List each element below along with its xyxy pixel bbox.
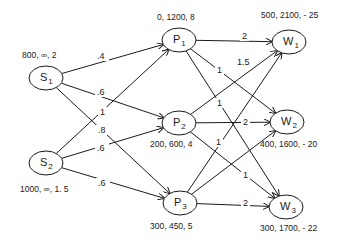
node-p1: P10, 1200, 8 xyxy=(157,12,196,52)
edge-weight-label: 1 xyxy=(100,107,105,117)
edge-s1-p2 xyxy=(61,83,163,118)
edge-weight-label: 2 xyxy=(243,198,248,208)
edge-weight-label: 1 xyxy=(217,65,222,75)
node-attributes: 400, 1600, - 20 xyxy=(260,139,317,149)
edge-weight-label: .8 xyxy=(98,125,106,135)
edge-weight-label: .6 xyxy=(98,178,106,188)
edge-s2-p1 xyxy=(56,50,168,154)
node-s1: S1800, ∞, 2 xyxy=(22,50,63,90)
edge-weight-label: 1 xyxy=(217,98,222,108)
node-p3: P3300, 450, 5 xyxy=(150,191,197,231)
edge-weight-label: 1.5 xyxy=(237,57,250,67)
edge-p3-w3 xyxy=(197,204,269,207)
edge-weight-label: 2 xyxy=(242,31,247,41)
edge-p2-w2 xyxy=(196,122,270,123)
node-s2: S21000, ∞, 1. 5 xyxy=(20,151,69,194)
node-attributes: 0, 1200, 8 xyxy=(157,12,195,22)
node-attributes: 500, 2100, - 25 xyxy=(261,10,318,20)
nodes-layer: S1800, ∞, 2S21000, ∞, 1. 5P10, 1200, 8P2… xyxy=(20,10,318,233)
node-attributes: 1000, ∞, 1. 5 xyxy=(20,184,69,194)
edge-weight-label: 1 xyxy=(243,170,248,180)
edge-s2-p2 xyxy=(62,128,164,159)
edge-weight-label: 2 xyxy=(243,117,248,127)
edge-weight-label: .6 xyxy=(97,87,105,97)
network-flow-diagram: .4.6.81.6.62111.52112 S1800, ∞, 2S21000,… xyxy=(0,0,349,248)
node-attributes: 300, 1700, - 22 xyxy=(260,223,317,233)
node-w1: W1500, 2100, - 25 xyxy=(261,10,318,54)
node-attributes: 800, ∞, 2 xyxy=(22,50,57,60)
node-w2: W2400, 1600, - 20 xyxy=(260,110,317,149)
edge-s2-p3 xyxy=(62,168,165,199)
node-w3: W3300, 1700, - 22 xyxy=(260,195,317,233)
node-attributes: 300, 450, 5 xyxy=(150,221,193,231)
edge-p1-w1 xyxy=(196,40,272,41)
edge-weight-label: .4 xyxy=(97,51,105,61)
node-attributes: 200, 600, 4 xyxy=(150,139,193,149)
edge-weight-label: .6 xyxy=(97,143,105,153)
edge-weight-label: 1 xyxy=(216,137,221,147)
